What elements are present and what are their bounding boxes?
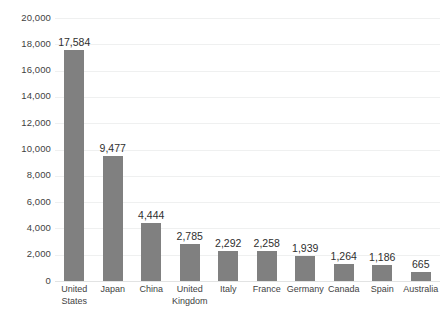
bar[interactable] bbox=[411, 272, 431, 281]
bar[interactable] bbox=[218, 251, 238, 281]
y-axis-tick-label: 16,000 bbox=[1, 65, 51, 75]
bar-group: 1,264 bbox=[325, 18, 364, 281]
y-axis-tick-label: 0 bbox=[1, 276, 51, 286]
axis-baseline bbox=[55, 281, 440, 282]
bar[interactable] bbox=[334, 264, 354, 281]
bar-chart: 02,0004,0006,0008,00010,00012,00014,0001… bbox=[0, 0, 445, 329]
bar-group: 1,186 bbox=[363, 18, 402, 281]
bar-group: 2,292 bbox=[209, 18, 248, 281]
bar-group: 9,477 bbox=[94, 18, 133, 281]
x-axis-category-label: United States bbox=[55, 284, 94, 307]
y-axis-tick-label: 6,000 bbox=[1, 197, 51, 207]
x-axis-category-label: United Kingdom bbox=[171, 284, 210, 307]
bar-group: 4,444 bbox=[132, 18, 171, 281]
bar-value-label: 2,785 bbox=[177, 230, 203, 242]
x-axis-category-labels: United StatesJapanChinaUnited KingdomIta… bbox=[55, 284, 440, 324]
y-axis-tick-label: 8,000 bbox=[1, 170, 51, 180]
bar-value-label: 2,292 bbox=[215, 237, 241, 249]
x-axis-category-label: France bbox=[248, 284, 287, 296]
x-axis-category-label: Australia bbox=[402, 284, 441, 296]
y-axis-tick-label: 10,000 bbox=[1, 144, 51, 154]
bar-series: 17,5849,4774,4442,7852,2922,2581,9391,26… bbox=[55, 18, 440, 281]
bar[interactable] bbox=[257, 251, 277, 281]
bar[interactable] bbox=[141, 223, 161, 281]
bar[interactable] bbox=[180, 244, 200, 281]
bar-value-label: 1,186 bbox=[369, 251, 395, 263]
bar-group: 17,584 bbox=[55, 18, 94, 281]
y-axis-tick-label: 4,000 bbox=[1, 223, 51, 233]
bar-value-label: 4,444 bbox=[138, 209, 164, 221]
y-axis-tick-label: 18,000 bbox=[1, 39, 51, 49]
y-axis-tick-label: 12,000 bbox=[1, 118, 51, 128]
bar-value-label: 9,477 bbox=[100, 142, 126, 154]
bar[interactable] bbox=[103, 156, 123, 281]
bar-group: 2,785 bbox=[171, 18, 210, 281]
x-axis-category-label: Japan bbox=[94, 284, 133, 296]
x-axis-category-label: Germany bbox=[286, 284, 325, 296]
x-axis-category-label: Canada bbox=[325, 284, 364, 296]
x-axis-category-label: Spain bbox=[363, 284, 402, 296]
bar-group: 2,258 bbox=[248, 18, 287, 281]
bar[interactable] bbox=[64, 50, 84, 281]
x-axis-category-label: Italy bbox=[209, 284, 248, 296]
x-axis-category-label: China bbox=[132, 284, 171, 296]
bar-value-label: 665 bbox=[412, 258, 430, 270]
y-axis-tick-label: 20,000 bbox=[1, 13, 51, 23]
bar-value-label: 17,584 bbox=[58, 36, 90, 48]
bar-group: 1,939 bbox=[286, 18, 325, 281]
bar-value-label: 2,258 bbox=[254, 237, 280, 249]
bar[interactable] bbox=[295, 256, 315, 281]
bar-value-label: 1,939 bbox=[292, 242, 318, 254]
bar-value-label: 1,264 bbox=[331, 250, 357, 262]
y-axis: 02,0004,0006,0008,00010,00012,00014,0001… bbox=[0, 18, 51, 281]
bar[interactable] bbox=[372, 265, 392, 281]
y-axis-tick-label: 2,000 bbox=[1, 249, 51, 259]
bar-group: 665 bbox=[402, 18, 441, 281]
y-axis-tick-label: 14,000 bbox=[1, 91, 51, 101]
